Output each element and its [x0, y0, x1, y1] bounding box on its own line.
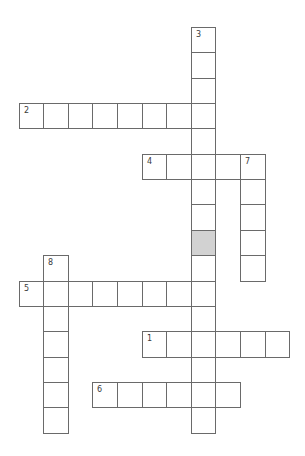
cell-letter-input[interactable]	[192, 53, 215, 78]
cell-letter-input[interactable]	[192, 256, 215, 281]
crossword-cell[interactable]	[166, 281, 192, 307]
cell-letter-input[interactable]	[20, 104, 43, 128]
crossword-cell[interactable]: 8	[43, 255, 69, 282]
crossword-cell[interactable]	[191, 357, 216, 383]
cell-letter-input[interactable]	[143, 104, 166, 128]
crossword-cell[interactable]	[191, 204, 216, 231]
cell-letter-input[interactable]	[192, 129, 215, 154]
crossword-cell[interactable]	[117, 103, 143, 129]
cell-letter-input[interactable]	[118, 282, 142, 306]
crossword-cell[interactable]: 6	[92, 382, 118, 408]
crossword-cell[interactable]	[43, 103, 69, 129]
cell-letter-input[interactable]	[192, 155, 215, 179]
crossword-cell[interactable]	[191, 128, 216, 155]
crossword-cell[interactable]	[191, 78, 216, 104]
cell-letter-input[interactable]	[93, 104, 117, 128]
crossword-cell[interactable]	[43, 306, 69, 332]
crossword-cell[interactable]: 5	[19, 281, 44, 307]
crossword-cell[interactable]	[166, 103, 192, 129]
crossword-cell[interactable]	[215, 382, 241, 408]
crossword-cell[interactable]	[191, 179, 216, 205]
crossword-cell[interactable]	[191, 306, 216, 332]
crossword-cell[interactable]	[191, 103, 216, 129]
cell-letter-input[interactable]	[192, 383, 215, 407]
cell-letter-input[interactable]	[69, 104, 92, 128]
cell-letter-input[interactable]	[167, 332, 191, 357]
crossword-cell[interactable]	[215, 331, 241, 358]
crossword-cell[interactable]	[191, 154, 216, 180]
cell-letter-input[interactable]	[44, 383, 68, 407]
crossword-cell[interactable]: 7	[240, 154, 266, 180]
cell-letter-input[interactable]	[192, 408, 215, 433]
cell-letter-input[interactable]	[192, 104, 215, 128]
crossword-cell[interactable]	[43, 407, 69, 434]
cell-letter-input[interactable]	[44, 358, 68, 382]
cell-letter-input[interactable]	[167, 282, 191, 306]
cell-letter-input[interactable]	[192, 205, 215, 230]
cell-letter-input[interactable]	[192, 358, 215, 382]
cell-letter-input[interactable]	[192, 332, 215, 357]
crossword-cell[interactable]	[68, 281, 93, 307]
cell-letter-input[interactable]	[44, 256, 68, 281]
crossword-cell[interactable]	[191, 52, 216, 79]
cell-letter-input[interactable]	[216, 332, 240, 357]
cell-letter-input[interactable]	[20, 282, 43, 306]
cell-letter-input[interactable]	[192, 180, 215, 204]
crossword-cell[interactable]	[215, 154, 241, 180]
crossword-cell[interactable]	[240, 230, 266, 256]
crossword-cell[interactable]	[240, 179, 266, 205]
cell-letter-input[interactable]	[143, 155, 166, 179]
crossword-cell[interactable]	[117, 382, 143, 408]
cell-letter-input[interactable]	[44, 282, 68, 306]
cell-letter-input[interactable]	[143, 332, 166, 357]
crossword-cell[interactable]	[166, 382, 192, 408]
cell-letter-input[interactable]	[241, 256, 265, 281]
crossword-cell[interactable]	[191, 382, 216, 408]
crossword-cell[interactable]: 2	[19, 103, 44, 129]
crossword-cell[interactable]	[43, 382, 69, 408]
crossword-cell[interactable]	[43, 281, 69, 307]
cell-letter-input[interactable]	[241, 180, 265, 204]
crossword-cell[interactable]	[43, 331, 69, 358]
crossword-cell[interactable]: 1	[142, 331, 167, 358]
cell-letter-input[interactable]	[192, 307, 215, 331]
crossword-cell[interactable]	[191, 407, 216, 434]
crossword-cell[interactable]	[68, 103, 93, 129]
cell-letter-input[interactable]	[167, 155, 191, 179]
cell-letter-input[interactable]	[93, 383, 117, 407]
crossword-cell[interactable]	[92, 281, 118, 307]
cell-letter-input[interactable]	[69, 282, 92, 306]
crossword-cell[interactable]	[142, 382, 167, 408]
crossword-cell[interactable]	[240, 255, 266, 282]
crossword-cell[interactable]	[166, 154, 192, 180]
cell-letter-input[interactable]	[192, 79, 215, 103]
cell-letter-input[interactable]	[216, 383, 240, 407]
cell-letter-input[interactable]	[167, 104, 191, 128]
cell-letter-input[interactable]	[241, 231, 265, 255]
cell-letter-input[interactable]	[216, 155, 240, 179]
cell-letter-input[interactable]	[118, 383, 142, 407]
crossword-cell[interactable]	[191, 331, 216, 358]
crossword-cell[interactable]	[191, 281, 216, 307]
cell-letter-input[interactable]	[241, 205, 265, 230]
cell-letter-input[interactable]	[192, 28, 215, 52]
cell-letter-input[interactable]	[143, 282, 166, 306]
crossword-cell[interactable]	[240, 331, 266, 358]
cell-letter-input[interactable]	[241, 155, 265, 179]
crossword-cell[interactable]	[265, 331, 290, 358]
cell-letter-input[interactable]	[44, 104, 68, 128]
cell-letter-input[interactable]	[241, 332, 265, 357]
crossword-cell[interactable]	[117, 281, 143, 307]
cell-letter-input[interactable]	[192, 282, 215, 306]
cell-letter-input[interactable]	[93, 282, 117, 306]
crossword-cell[interactable]: 3	[191, 27, 216, 53]
crossword-cell[interactable]: 4	[142, 154, 167, 180]
cell-letter-input[interactable]	[44, 307, 68, 331]
crossword-cell[interactable]	[191, 255, 216, 282]
crossword-cell[interactable]	[142, 281, 167, 307]
crossword-cell[interactable]	[142, 103, 167, 129]
cell-letter-input[interactable]	[44, 408, 68, 433]
cell-letter-input[interactable]	[266, 332, 289, 357]
cell-letter-input[interactable]	[44, 332, 68, 357]
crossword-cell[interactable]	[240, 204, 266, 231]
